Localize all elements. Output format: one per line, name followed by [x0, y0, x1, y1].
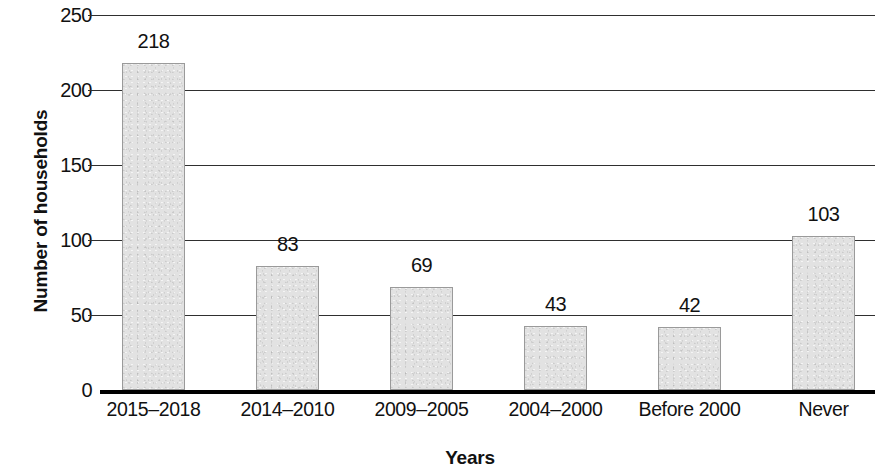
bar [792, 236, 855, 391]
y-axis-tick-mark [88, 15, 100, 16]
x-axis-title: Years [0, 447, 880, 469]
y-axis-tick-label: 200 [36, 80, 92, 100]
y-axis-tick-mark [88, 240, 100, 241]
x-axis-baseline [100, 390, 875, 394]
bar-value-label: 218 [94, 31, 214, 51]
y-axis-tick-mark [88, 165, 100, 166]
gridline [100, 240, 875, 241]
gridline [100, 315, 875, 316]
plot-area: 21883694342103 [100, 15, 875, 390]
bar [658, 327, 721, 390]
bar-value-label: 83 [228, 234, 348, 254]
y-axis-tick-label: 0 [36, 380, 92, 400]
bar-value-label: 43 [496, 294, 616, 314]
y-axis-tick-label: 100 [36, 230, 92, 250]
gridline [100, 15, 875, 16]
bar-value-label: 69 [362, 255, 482, 275]
y-axis-tick-mark [88, 315, 100, 316]
gridline [100, 165, 875, 166]
y-axis-tick-label: 250 [36, 5, 92, 25]
x-axis-tick-labels: 2015–20182014–20102009–20052004–2000Befo… [0, 400, 880, 430]
y-axis-tick-label: 150 [36, 155, 92, 175]
x-axis-tick-label: Never [744, 400, 880, 420]
bar-value-label: 42 [630, 295, 750, 315]
bar [524, 326, 587, 391]
gridline [100, 90, 875, 91]
bar [256, 266, 319, 391]
bar-chart: Number of households 050100150200250 218… [0, 0, 880, 475]
y-axis-tick-label: 50 [36, 305, 92, 325]
bar [390, 287, 453, 391]
bar [122, 63, 185, 390]
y-axis-tick-mark [88, 90, 100, 91]
bar-value-label: 103 [764, 204, 880, 224]
